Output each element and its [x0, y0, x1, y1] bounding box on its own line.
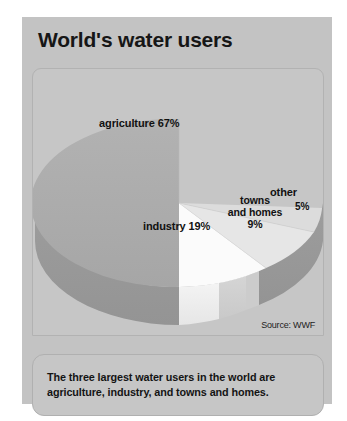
caption-text: The three largest water users in the wor… [47, 370, 309, 401]
other-label-text: other [270, 186, 297, 198]
caption-box: The three largest water users in the wor… [32, 354, 324, 416]
towns-label-line2: and homes [228, 206, 283, 218]
towns-label-value: 9% [248, 218, 263, 230]
pie-label-towns-and-homes: towns and homes 9% [218, 195, 292, 230]
industry-side-wall [179, 281, 219, 325]
pie-label-agriculture: agriculture 67% [99, 117, 179, 129]
chart-source: Source: WWF [261, 320, 315, 330]
other-label-value: 5% [295, 201, 309, 212]
pie-label-other: other [270, 186, 297, 198]
page-title: World's water users [38, 28, 233, 52]
towns-label-line1: towns [240, 194, 270, 206]
infographic-page: World's water users [0, 0, 347, 421]
pie-chart-panel: agriculture 67% industry 19% towns and h… [32, 68, 324, 336]
chart-card: World's water users [22, 17, 332, 404]
pie-label-industry: industry 19% [143, 220, 210, 232]
